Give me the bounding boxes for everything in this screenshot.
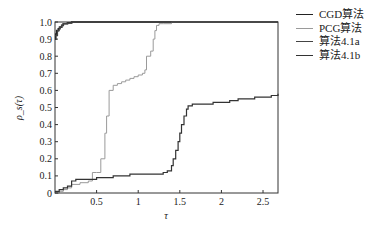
legend-item-alg41a: 算法4.1a: [296, 35, 364, 49]
y-tick-label: 0.3: [40, 136, 53, 147]
x-tick-label: 1: [136, 196, 141, 207]
y-tick-label: 0.4: [40, 119, 53, 130]
y-tick-label: 0.8: [40, 51, 53, 62]
x-tick-label: 2.5: [257, 196, 270, 207]
legend-label-alg41b: 算法4.1b: [319, 49, 360, 63]
y-tick-label: 0.6: [40, 85, 53, 96]
y-tick-label: 0.2: [40, 153, 53, 164]
legend-label-pcg: PCG算法: [319, 22, 362, 36]
legend-swatch-pcg: [296, 28, 313, 29]
legend-label-cgd: CGD算法: [319, 8, 364, 22]
y-tick-label: 1.0: [40, 17, 53, 28]
x-axis-label: τ: [164, 210, 168, 221]
x-tick-label: 1.5: [174, 196, 187, 207]
series-line-0: [55, 22, 278, 39]
y-tick-label: 0.9: [40, 34, 53, 45]
legend-item-alg41b: 算法4.1b: [296, 49, 364, 63]
legend: CGD算法 PCG算法 算法4.1a 算法4.1b: [296, 8, 364, 62]
legend-item-cgd: CGD算法: [296, 8, 364, 22]
legend-item-pcg: PCG算法: [296, 22, 364, 36]
y-tick-label: 0: [47, 188, 52, 199]
x-tick-label: 2: [219, 196, 224, 207]
y-axis-label: ρ_s(τ): [13, 95, 25, 121]
axes: 0.511.522.500.10.20.30.40.50.60.70.80.91…: [40, 17, 279, 208]
series-line-1: [55, 22, 278, 193]
x-tick-label: 0.5: [90, 196, 103, 207]
legend-swatch-alg41b: [296, 55, 313, 56]
y-tick-label: 0.1: [40, 170, 53, 181]
legend-label-alg41a: 算法4.1a: [319, 35, 360, 49]
plot-area: [55, 22, 278, 193]
legend-swatch-alg41a: [296, 41, 313, 42]
y-tick-label: 0.7: [40, 68, 53, 79]
series-line-3: [55, 94, 278, 192]
y-tick-label: 0.5: [40, 102, 53, 113]
axes-frame: [55, 22, 278, 193]
legend-swatch-cgd: [296, 14, 313, 15]
